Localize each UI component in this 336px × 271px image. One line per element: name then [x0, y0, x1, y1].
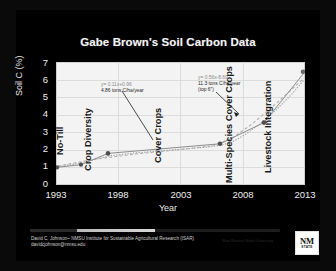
x-tick-1998: 1998	[98, 189, 138, 200]
playback-progress-fill	[30, 229, 155, 232]
presentation-slide: Gabe Brown's Soil Carbon Data Soil C (%)…	[0, 0, 336, 271]
y-tick-0: 0	[32, 179, 48, 189]
x-tick-2013: 2013	[285, 189, 325, 200]
nmsu-logo-secondary: STATE	[301, 245, 312, 249]
practice-label-cover-crops: Cover Crops	[153, 108, 163, 163]
annotation-right-equation: y= 0.56x-8.69 11.3 tons C/ha/year (top 6…	[198, 75, 240, 94]
nmsu-logo: NM STATE	[295, 231, 319, 255]
y-tick-6: 6	[32, 75, 48, 85]
y-tick-3: 3	[32, 127, 48, 137]
data-point	[301, 69, 305, 74]
practice-label-livestock-integration: Livestock Integration	[263, 81, 273, 173]
footer-line-2: davidcjohnson@nmsu.edu	[31, 242, 194, 248]
y-tick-2: 2	[32, 144, 48, 154]
page-title: Gabe Brown's Soil Carbon Data	[16, 36, 320, 48]
playback-progress-bar[interactable]	[30, 229, 280, 232]
y-tick-4: 4	[32, 109, 48, 119]
annotation-right-equation-line3: (top 6")	[198, 87, 240, 93]
y-tick-7: 7	[32, 58, 48, 68]
data-point	[218, 142, 223, 147]
university-tagline: New Mexico State University	[222, 238, 273, 243]
chart-plot-area: No-Till Crop Diversity Cover Crops Multi…	[56, 62, 305, 185]
x-tick-2003: 2003	[161, 189, 201, 200]
y-tick-5: 5	[32, 92, 48, 102]
x-tick-1993: 1993	[36, 189, 76, 200]
y-axis-title: Soil C (%)	[14, 55, 24, 96]
practice-label-crop-diversity: Crop Diversity	[83, 108, 93, 171]
y-tick-1: 1	[32, 161, 48, 171]
x-tick-2008: 2008	[223, 189, 263, 200]
annotation-left-equation-line2: 4.86 tons C/ha/year	[101, 88, 144, 94]
data-point	[106, 151, 111, 156]
practice-label-no-till: No-Till	[56, 127, 65, 155]
footer-credits: David C. Johnson~ NMSU Institute for Sus…	[31, 236, 194, 249]
x-axis-title: Year	[16, 203, 320, 213]
leader-line-early	[122, 91, 153, 140]
annotation-left-equation: y= 0.11x+0.96 4.86 tons C/ha/year	[101, 82, 144, 94]
nmsu-logo-primary: NM	[300, 237, 314, 245]
